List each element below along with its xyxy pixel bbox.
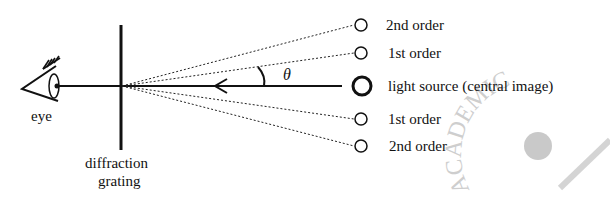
image-2nd-lower (355, 140, 367, 152)
label-1st-upper: 1st order (388, 45, 441, 61)
image-1st-lower (355, 113, 367, 125)
angle-label: θ (283, 66, 291, 83)
eye-icon (22, 56, 60, 101)
image-1st-upper (355, 47, 367, 59)
light-source (353, 77, 371, 95)
image-2nd-upper (355, 19, 367, 31)
grating-label-line1: diffraction (85, 155, 149, 171)
ray-2nd-upper (122, 25, 354, 86)
ray-1st-lower (122, 86, 354, 119)
label-light-source: light source (central image) (388, 78, 553, 95)
watermark-disc (524, 132, 552, 160)
eye-label: eye (31, 108, 52, 124)
label-2nd-lower: 2nd order (389, 138, 447, 154)
label-2nd-upper: 2nd order (386, 17, 444, 33)
ray-1st-upper (122, 53, 354, 86)
watermark-stroke (560, 140, 610, 188)
eye-lids (22, 66, 58, 101)
angle-arc (258, 67, 264, 86)
ray-2nd-lower (122, 86, 354, 146)
diffraction-diagram: ACADEMIC eye diffraction grating θ (0, 0, 610, 198)
label-1st-lower: 1st order (388, 111, 441, 127)
eyelashes-icon (43, 56, 60, 69)
grating-label-line2: grating (98, 173, 141, 189)
